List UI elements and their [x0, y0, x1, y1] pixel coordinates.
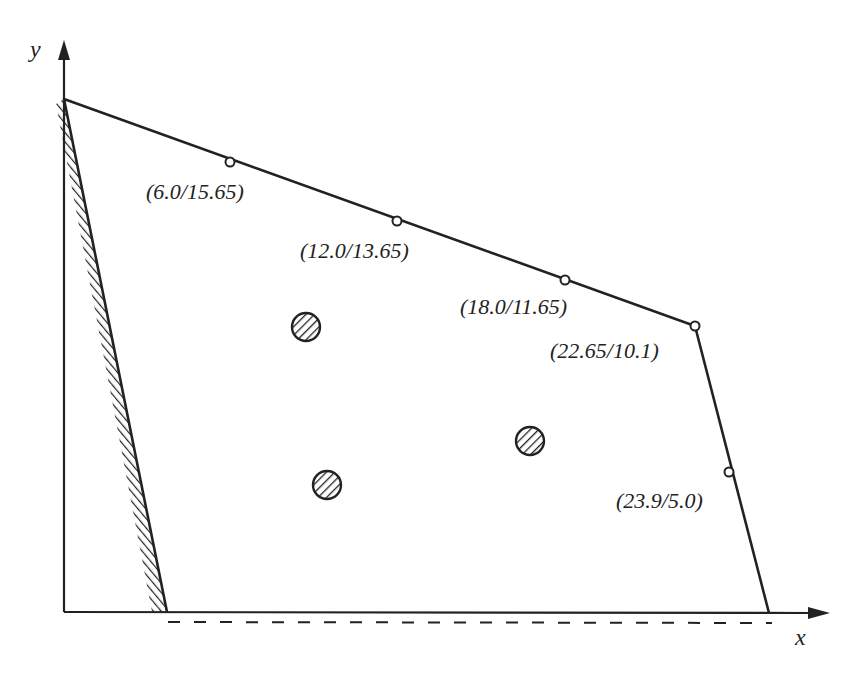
point-label-4: (22.65/10.1): [550, 338, 659, 363]
y-axis-arrow-icon: [58, 40, 70, 60]
point-marker: [393, 217, 402, 226]
point-label-1: (6.0/15.65): [146, 179, 244, 204]
interior-markers: [292, 313, 544, 499]
dashed-line: [168, 622, 772, 623]
hatched-circle: [292, 313, 320, 341]
region-boundary: [64, 99, 769, 613]
hatched-circle: [516, 427, 544, 455]
point-label-2: (12.0/13.65): [300, 238, 409, 263]
x-axis-label: x: [794, 624, 806, 650]
point-marker: [691, 322, 700, 331]
point-marker: [725, 468, 734, 477]
x-axis-arrow-icon: [808, 607, 830, 619]
point-label-5: (23.9/5.0): [616, 488, 703, 513]
point-marker: [561, 276, 570, 285]
x-axis: [64, 607, 830, 619]
point-label-3: (18.0/11.65): [460, 294, 567, 319]
y-axis-label: y: [28, 36, 41, 62]
point-marker: [226, 158, 235, 167]
hatched-circle: [313, 471, 341, 499]
diagram-canvas: y x (6.0/15.65) (12.0/13.65) (18.0/11.65…: [0, 0, 858, 680]
